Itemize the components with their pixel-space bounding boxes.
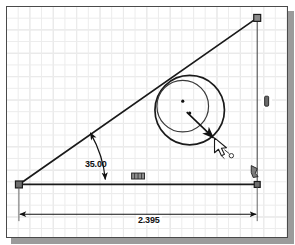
horizontal-constraint-icon[interactable] bbox=[130, 172, 146, 181]
inclined-hypotenuse-line[interactable] bbox=[19, 18, 257, 185]
outer-circle-center-point[interactable] bbox=[181, 100, 184, 103]
circle-group[interactable] bbox=[155, 75, 225, 144]
sketch-canvas-window[interactable]: 35.00 2.395 bbox=[6, 6, 288, 238]
triangle-profile[interactable] bbox=[19, 18, 257, 185]
screenshot-root: 35.00 2.395 bbox=[0, 0, 295, 245]
angle-dimension-arc[interactable] bbox=[90, 133, 105, 180]
inner-circle[interactable] bbox=[157, 80, 209, 132]
radius-leader-arrow bbox=[187, 112, 214, 138]
sketch-geometry-layer[interactable] bbox=[7, 7, 287, 237]
vertical-constraint-icon[interactable] bbox=[261, 94, 272, 108]
length-dimension-value[interactable]: 2.395 bbox=[136, 215, 162, 225]
mouse-cursor bbox=[215, 138, 234, 159]
outer-circle[interactable] bbox=[155, 75, 225, 144]
angle-dimension-graphics[interactable] bbox=[90, 133, 105, 180]
angle-dimension-value[interactable]: 35.00 bbox=[85, 159, 107, 169]
top-right-endpoint-handle[interactable] bbox=[254, 14, 261, 21]
